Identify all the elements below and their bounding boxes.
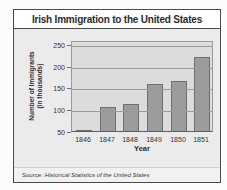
y-tick-label-100: 100 — [43, 107, 65, 114]
y-tick-mark-150 — [67, 88, 71, 89]
y-axis-title: Number of Immigrants (in thousands) — [28, 51, 44, 120]
source-text: Source:Historical Statistics of the Unit… — [22, 172, 149, 178]
y-tick-label-150: 150 — [43, 85, 65, 92]
y-axis-title-line1: Number of Immigrants — [28, 51, 36, 120]
gridline-150 — [72, 89, 212, 90]
plot-area — [71, 41, 213, 132]
chart-figure: Irish Immigration to the United States N… — [13, 9, 221, 183]
gridline-250 — [72, 46, 212, 47]
y-tick-mark-100 — [67, 110, 71, 111]
y-tick-mark-250 — [67, 45, 71, 46]
chart-title-bar: Irish Immigration to the United States — [14, 10, 220, 29]
y-tick-mark-50 — [67, 132, 71, 133]
x-tick-label-1848: 1848 — [118, 136, 142, 144]
chart-title: Irish Immigration to the United States — [32, 14, 202, 25]
y-tick-label-200: 200 — [43, 64, 65, 71]
x-axis-title: Year — [71, 144, 213, 153]
gridline-100 — [72, 111, 212, 112]
x-tick-label-1849: 1849 — [142, 136, 166, 144]
x-tick-label-1847: 1847 — [95, 136, 119, 144]
x-tick-label-1846: 1846 — [71, 136, 95, 144]
chart-panel: Number of Immigrants (in thousands) 5010… — [14, 29, 220, 167]
gridline-200 — [72, 68, 212, 69]
source-prefix: Source: — [22, 172, 43, 178]
bar-1846 — [76, 130, 92, 131]
y-tick-label-250: 250 — [43, 42, 65, 49]
bar-1848 — [123, 104, 139, 131]
x-tick-label-1850: 1850 — [166, 136, 190, 144]
source-title: Historical Statistics of the United Stat… — [45, 172, 150, 178]
source-bar: Source:Historical Statistics of the Unit… — [14, 167, 220, 182]
x-tick-label-1851: 1851 — [189, 136, 213, 144]
y-tick-label-50: 50 — [43, 129, 65, 136]
y-tick-mark-200 — [67, 67, 71, 68]
bar-1849 — [147, 84, 163, 131]
